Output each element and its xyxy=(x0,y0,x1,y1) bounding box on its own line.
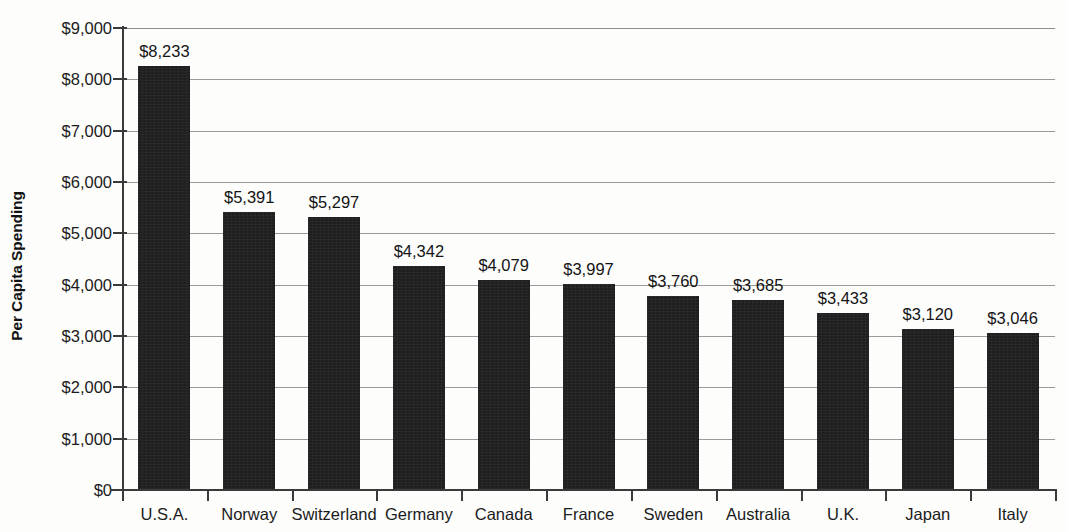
x-axis-tick xyxy=(801,490,803,501)
x-axis-category-label: Japan xyxy=(905,505,950,524)
x-axis-tick xyxy=(461,490,463,501)
x-axis-tick xyxy=(631,490,633,501)
y-axis-tick-label: $2,000 xyxy=(16,378,112,397)
x-axis-category-label: Canada xyxy=(475,505,533,524)
x-axis-tick xyxy=(376,490,378,501)
bar-value-label: $3,685 xyxy=(733,276,783,295)
y-axis-tick xyxy=(113,232,127,234)
bar[interactable] xyxy=(647,296,699,489)
bar[interactable] xyxy=(478,280,530,489)
y-axis-tick-label: $1,000 xyxy=(16,429,112,448)
bar[interactable] xyxy=(732,300,784,489)
y-axis-tick xyxy=(113,284,127,286)
x-axis-category-label: Italy xyxy=(997,505,1027,524)
bar[interactable] xyxy=(223,212,275,489)
x-axis-category-label: Norway xyxy=(221,505,277,524)
y-axis-tick-label: $9,000 xyxy=(16,19,112,38)
y-axis-tick-labels: $9,000$8,000$7,000$6,000$5,000$4,000$3,0… xyxy=(8,0,112,532)
y-axis-tick-label: $3,000 xyxy=(16,327,112,346)
x-axis-tick xyxy=(546,490,548,501)
x-axis-tick xyxy=(885,490,887,501)
y-axis-tick xyxy=(113,335,127,337)
y-axis-tick-label: $5,000 xyxy=(16,224,112,243)
bar[interactable] xyxy=(817,313,869,489)
bar-value-label: $3,046 xyxy=(987,309,1037,328)
x-axis-tick xyxy=(716,490,718,501)
y-axis-tick xyxy=(113,27,127,29)
y-axis-tick-label: $4,000 xyxy=(16,275,112,294)
bar-value-label: $5,297 xyxy=(309,193,359,212)
bar-value-label: $3,760 xyxy=(648,272,698,291)
bar[interactable] xyxy=(308,217,360,489)
y-axis-tick-label: $0 xyxy=(16,481,112,500)
bar-value-label: $4,342 xyxy=(394,242,444,261)
y-axis-tick xyxy=(113,181,127,183)
y-axis-tick xyxy=(113,130,127,132)
x-axis-category-label: Sweden xyxy=(643,505,703,524)
x-axis-category-label: Germany xyxy=(385,505,453,524)
x-axis-tick xyxy=(970,490,972,501)
bar-chart: Per Capita Spending $9,000$8,000$7,000$6… xyxy=(0,0,1068,532)
bar-value-label: $8,233 xyxy=(139,42,189,61)
x-axis-category-label: Australia xyxy=(726,505,790,524)
x-axis-tick xyxy=(207,490,209,501)
bar[interactable] xyxy=(563,284,615,489)
x-axis-category-label: U.K. xyxy=(827,505,859,524)
bar[interactable] xyxy=(138,66,190,489)
x-axis-line xyxy=(110,489,1057,491)
x-axis-category-label: Switzerland xyxy=(291,505,376,524)
bar-value-label: $4,079 xyxy=(478,256,528,275)
bar-value-label: $5,391 xyxy=(224,188,274,207)
y-axis-tick-label: $7,000 xyxy=(16,121,112,140)
x-axis-tick xyxy=(292,490,294,501)
bars-layer xyxy=(122,28,1055,489)
bar[interactable] xyxy=(987,333,1039,489)
bar[interactable] xyxy=(902,329,954,489)
bar-value-label: $3,997 xyxy=(563,260,613,279)
y-axis-tick xyxy=(113,438,127,440)
y-axis-tick-label: $6,000 xyxy=(16,173,112,192)
x-axis-category-label: France xyxy=(563,505,614,524)
bar[interactable] xyxy=(393,266,445,489)
y-axis-tick xyxy=(113,78,127,80)
y-axis-tick xyxy=(113,386,127,388)
y-axis-tick xyxy=(113,489,127,491)
x-axis-tick xyxy=(1055,490,1057,501)
y-axis-tick-label: $8,000 xyxy=(16,70,112,89)
bar-value-label: $3,433 xyxy=(818,289,868,308)
x-axis-tick xyxy=(122,490,124,501)
x-axis-category-label: U.S.A. xyxy=(141,505,189,524)
bar-value-label: $3,120 xyxy=(903,305,953,324)
